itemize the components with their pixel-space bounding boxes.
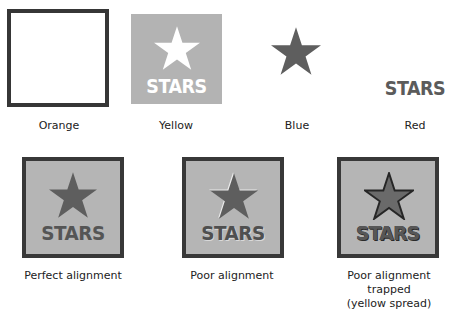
stars-text: STARS [345, 222, 431, 244]
yellow-label: Yellow [146, 119, 206, 133]
blue-plate-star [268, 24, 324, 78]
composite-poor-alignment: STARS [182, 157, 284, 258]
red-plate-text: STARS [380, 76, 450, 100]
perfect-alignment-label: Perfect alignment [13, 269, 133, 283]
composite-perfect-alignment: STARS [22, 157, 124, 258]
star-icon [49, 172, 97, 218]
trapped-label-line-2: trapped [329, 283, 449, 297]
orange-label: Orange [29, 119, 89, 133]
star-misregistered-icon [209, 172, 259, 220]
blue-label: Blue [267, 119, 327, 133]
star-icon [271, 27, 321, 75]
poor-alignment-label: Poor alignment [172, 269, 292, 283]
stars-text: STARS [30, 222, 116, 244]
star-knockout-icon [154, 26, 200, 70]
stars-knockout-text: STARS [135, 76, 219, 96]
composite-trapped: STARS [337, 157, 439, 258]
orange-plate-frame [7, 9, 109, 107]
stars-text: STARS [190, 222, 276, 244]
red-label: Red [385, 119, 445, 133]
stars-text: STARS [383, 77, 447, 99]
trapped-label-line-3: (yellow spread) [329, 297, 449, 311]
yellow-plate-square: STARS [131, 14, 222, 104]
star-trapped-icon [364, 172, 414, 220]
trapped-label-line-1: Poor alignment [329, 269, 449, 283]
